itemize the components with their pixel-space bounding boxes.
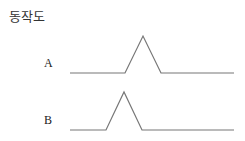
timing-diagram: [0, 0, 245, 141]
signal-b-waveform: [70, 92, 234, 130]
signal-a-waveform: [70, 36, 234, 73]
